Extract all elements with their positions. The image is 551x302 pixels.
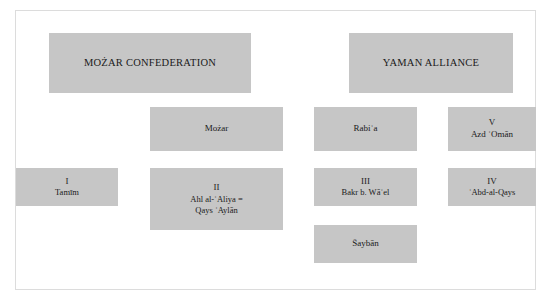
node-yaman-alliance-label: YAMAN ALLIANCE	[383, 56, 480, 69]
node-bakr-label: Bakr b. Wāʾel	[342, 187, 390, 198]
node-mozar-confederation-label: MOŻAR CONFEDERATION	[84, 56, 216, 69]
node-azd-oman-numeral: V	[489, 117, 496, 129]
node-abd-al-qays[interactable]: IV ʿAbd-al-Qays	[448, 168, 536, 206]
node-ahl-al-aliya-numeral: II	[214, 182, 220, 194]
node-mozar-confederation[interactable]: MOŻAR CONFEDERATION	[49, 33, 251, 93]
node-shayban[interactable]: Šaybān	[314, 225, 417, 263]
node-tamim[interactable]: I Tamīm	[16, 168, 118, 206]
diagram-canvas: MOŻAR CONFEDERATION YAMAN ALLIANCE Możar…	[0, 0, 551, 302]
node-bakr-numeral: III	[361, 176, 370, 188]
node-mozar-label: Możar	[205, 123, 229, 135]
node-rabia-label: Rabiʿa	[354, 123, 378, 135]
node-yaman-alliance[interactable]: YAMAN ALLIANCE	[349, 33, 513, 93]
node-abd-al-qays-numeral: IV	[487, 176, 497, 188]
node-azd-oman-label: Azd ʿOmān	[471, 129, 513, 141]
node-ahl-al-aliya[interactable]: II Ahl al-ʿAliya = Qays ʿAylān	[150, 168, 283, 230]
node-abd-al-qays-label: ʿAbd-al-Qays	[469, 187, 516, 198]
node-mozar[interactable]: Możar	[150, 107, 283, 151]
node-ahl-al-aliya-label-line1: Ahl al-ʿAliya =	[190, 194, 242, 205]
node-ahl-al-aliya-label-line2: Qays ʿAylān	[195, 205, 237, 216]
node-tamim-label: Tamīm	[55, 187, 79, 198]
node-rabia[interactable]: Rabiʿa	[314, 107, 417, 151]
node-azd-oman[interactable]: V Azd ʿOmān	[448, 107, 536, 151]
node-shayban-label: Šaybān	[352, 238, 379, 250]
node-bakr[interactable]: III Bakr b. Wāʾel	[314, 168, 417, 206]
node-tamim-numeral: I	[66, 176, 69, 188]
